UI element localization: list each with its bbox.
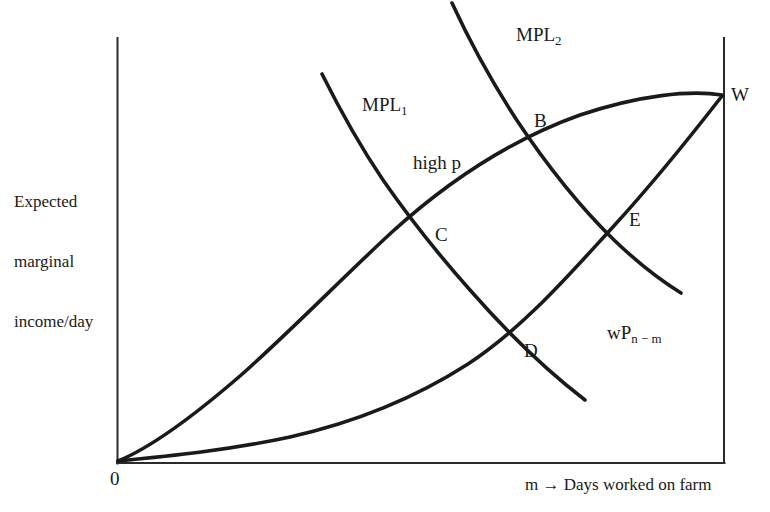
x-axis-label: m → Days worked on farm — [525, 475, 712, 495]
origin-label: 0 — [110, 468, 120, 490]
curve-label-high-p: high p — [413, 152, 461, 174]
y-axis-label-line-1: Expected — [14, 192, 114, 212]
point-label-d: D — [524, 340, 538, 362]
y-axis-label-line-3: income/day — [14, 312, 114, 332]
curve-label-mpl2-subscript: 2 — [555, 33, 561, 48]
point-label-e: E — [629, 209, 641, 231]
curve-wage-wpnm — [118, 96, 722, 461]
curve-label-mpl2-text: MPL — [516, 24, 555, 45]
curve-high-p — [118, 93, 722, 461]
point-label-b: B — [534, 110, 547, 132]
curve-label-wage-wpnm: wPn − m — [588, 300, 662, 369]
curve-label-wage-subscript: n − m — [631, 331, 661, 346]
y-axis-label: Expected marginal income/day — [14, 152, 114, 373]
curve-label-wage-text: wP — [607, 322, 631, 343]
y-axis-label-line-2: marginal — [14, 252, 114, 272]
economics-diagram: Expected marginal income/day m → Days wo… — [0, 0, 770, 512]
point-label-c: C — [435, 224, 448, 246]
curve-label-mpl1-text: MPL — [362, 94, 401, 115]
curve-label-mpl1-subscript: 1 — [401, 103, 407, 118]
curve-mpl2 — [452, 3, 681, 293]
point-label-w: W — [731, 84, 749, 106]
curve-label-mpl1: MPL1 — [343, 72, 408, 141]
curve-label-mpl2: MPL2 — [497, 2, 562, 71]
